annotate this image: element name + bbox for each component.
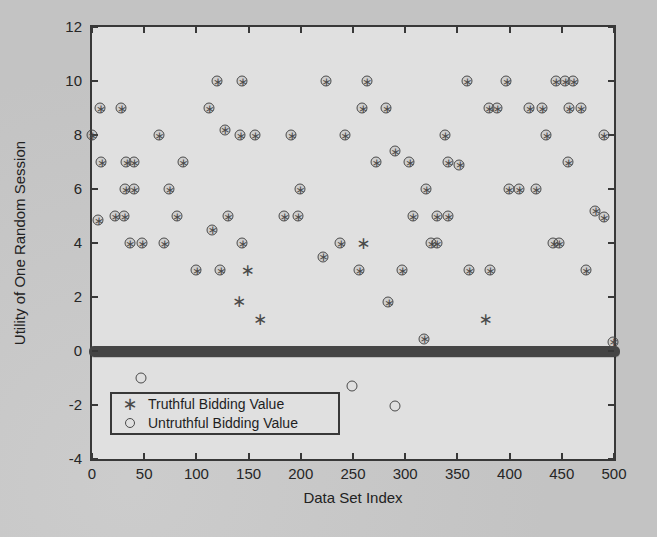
- scatter-point-truthful-and-untruthful: [492, 103, 503, 114]
- scatter-point-truthful-and-untruthful: [443, 211, 454, 222]
- x-tick-label: 400: [497, 465, 522, 482]
- y-tick-label: -2: [40, 396, 82, 413]
- scatter-point-truthful-and-untruthful: [203, 103, 214, 114]
- scatter-point-truthful-and-untruthful: [530, 184, 541, 195]
- x-tick-label: 350: [445, 465, 470, 482]
- x-axis-label: Data Set Index: [303, 489, 402, 506]
- scatter-point-truthful-and-untruthful: [153, 130, 164, 141]
- scatter-point-truthful-and-untruthful: [461, 76, 472, 87]
- scatter-point-truthful-and-untruthful: [568, 76, 579, 87]
- legend-row-truthful: ∗ Truthful Bidding Value: [112, 395, 338, 414]
- x-tick: [456, 27, 458, 33]
- x-tick: [143, 27, 145, 33]
- scatter-point-truthful-and-untruthful: [286, 130, 297, 141]
- y-tick: [92, 458, 98, 460]
- x-tick: [561, 27, 563, 33]
- scatter-point-truthful-and-untruthful: [421, 184, 432, 195]
- x-tick-label: 150: [236, 465, 261, 482]
- scatter-point-truthful-and-untruthful: [598, 212, 609, 223]
- y-tick: [92, 188, 98, 190]
- scatter-point-truthful-and-untruthful: [564, 103, 575, 114]
- x-tick-label: 450: [549, 465, 574, 482]
- scatter-point-truthful-and-untruthful: [87, 130, 98, 141]
- scatter-point-truthful-and-untruthful: [598, 130, 609, 141]
- scatter-point-truthful-and-untruthful: [215, 265, 226, 276]
- y-tick-label: 2: [40, 288, 82, 305]
- x-tick: [143, 453, 145, 459]
- scatter-point-truthful-and-untruthful: [580, 265, 591, 276]
- x-tick: [248, 453, 250, 459]
- scatter-point-truthful-and-untruthful: [513, 184, 524, 195]
- y-tick: [608, 404, 614, 406]
- scatter-point-truthful-and-untruthful: [524, 103, 535, 114]
- y-tick: [608, 296, 614, 298]
- scatter-point-truthful-and-untruthful: [563, 157, 574, 168]
- scatter-point-truthful-and-untruthful: [116, 103, 127, 114]
- scatter-point-truthful-and-untruthful: [93, 215, 104, 226]
- scatter-point-untruthful: [389, 401, 400, 412]
- scatter-point-truthful-and-untruthful: [171, 211, 182, 222]
- scatter-point-truthful-and-untruthful: [164, 184, 175, 195]
- y-tick: [608, 188, 614, 190]
- y-tick-label: 4: [40, 234, 82, 251]
- scatter-point-truthful-and-untruthful: [431, 211, 442, 222]
- scatter-point-truthful-and-untruthful: [279, 211, 290, 222]
- scatter-point-truthful-and-untruthful: [361, 76, 372, 87]
- scatter-point-truthful-and-untruthful: [354, 265, 365, 276]
- scatter-point-truthful-and-untruthful: [431, 238, 442, 249]
- x-tick: [561, 453, 563, 459]
- y-tick-label: -4: [40, 450, 82, 467]
- scatter-point-truthful-and-untruthful: [292, 211, 303, 222]
- scatter-point-truthful-and-untruthful: [370, 157, 381, 168]
- scatter-point-truthful-and-untruthful: [317, 251, 328, 262]
- y-tick: [92, 404, 98, 406]
- y-tick: [92, 242, 98, 244]
- scatter-point-truthful-and-untruthful: [439, 130, 450, 141]
- y-tick-label: 6: [40, 180, 82, 197]
- y-tick: [92, 296, 98, 298]
- scatter-point-truthful-and-untruthful: [159, 238, 170, 249]
- scatter-point-truthful-and-untruthful: [335, 238, 346, 249]
- y-tick: [608, 80, 614, 82]
- scatter-point-truthful-and-untruthful: [607, 336, 618, 347]
- scatter-point-truthful-and-untruthful: [357, 103, 368, 114]
- x-tick-label: 50: [136, 465, 153, 482]
- scatter-point-truthful-and-untruthful: [463, 265, 474, 276]
- y-tick: [608, 26, 614, 28]
- x-tick: [509, 453, 511, 459]
- scatter-point-truthful-and-untruthful: [249, 130, 260, 141]
- x-tick-label: 0: [88, 465, 96, 482]
- x-tick: [456, 453, 458, 459]
- scatter-figure: ∗∗∗∗∗ Data Set Index Utility of One Rand…: [0, 0, 657, 537]
- scatter-point-truthful-and-untruthful: [222, 211, 233, 222]
- legend-label-truthful: Truthful Bidding Value: [148, 396, 284, 412]
- y-axis-label: Utility of One Random Session: [11, 141, 28, 345]
- scatter-point-truthful-and-untruthful: [137, 238, 148, 249]
- scatter-point-truthful-and-untruthful: [541, 130, 552, 141]
- scatter-point-truthful-and-untruthful: [124, 238, 135, 249]
- scatter-point-truthful-and-untruthful: [536, 103, 547, 114]
- scatter-point-truthful-and-untruthful: [128, 157, 139, 168]
- scatter-point-truthful-and-untruthful: [381, 103, 392, 114]
- y-tick-label: 12: [40, 18, 82, 35]
- scatter-point-truthful-and-untruthful: [407, 211, 418, 222]
- scatter-point-truthful-and-untruthful: [418, 333, 429, 344]
- scatter-point-truthful-and-untruthful: [389, 146, 400, 157]
- scatter-point-truthful-and-untruthful: [177, 157, 188, 168]
- x-tick: [404, 453, 406, 459]
- scatter-point-untruthful: [346, 381, 357, 392]
- x-tick: [300, 27, 302, 33]
- scatter-point-truthful-and-untruthful: [191, 265, 202, 276]
- scatter-point-truthful-and-untruthful: [119, 211, 130, 222]
- scatter-point-truthful-and-untruthful: [397, 265, 408, 276]
- scatter-point-untruthful: [136, 373, 147, 384]
- scatter-point-truthful-and-untruthful: [96, 157, 107, 168]
- scatter-point-truthful-and-untruthful: [454, 159, 465, 170]
- scatter-point-truthful-and-untruthful: [553, 238, 564, 249]
- x-tick-label: 500: [601, 465, 626, 482]
- x-tick: [195, 453, 197, 459]
- zero-utility-band: [89, 346, 620, 357]
- scatter-point-truthful-and-untruthful: [484, 265, 495, 276]
- y-tick: [92, 350, 98, 352]
- x-tick-label: 200: [288, 465, 313, 482]
